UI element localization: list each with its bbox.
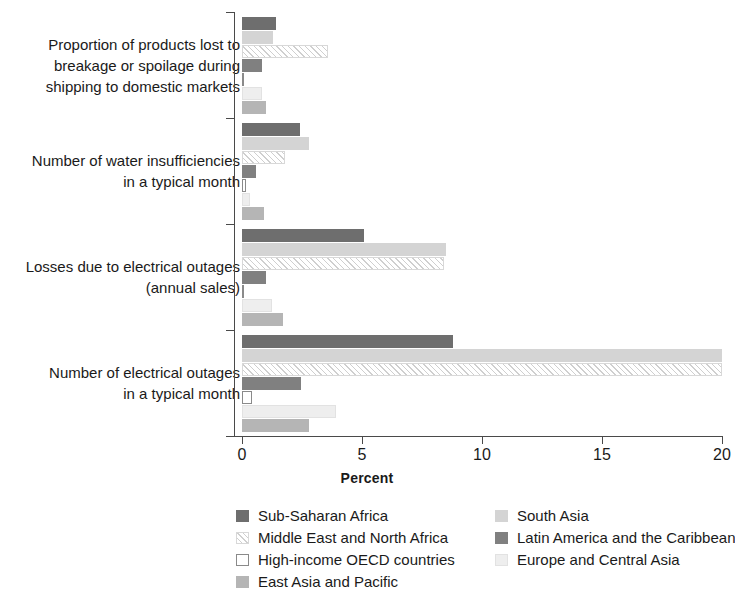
- legend-swatch-icon: [236, 554, 249, 566]
- chart-legend: Sub-Saharan AfricaMiddle East and North …: [0, 505, 734, 600]
- bar-group: [242, 12, 722, 118]
- legend-item[interactable]: Latin America and the Caribbean: [495, 527, 735, 549]
- bar-row: [242, 363, 722, 376]
- y-axis-tick: [226, 118, 235, 119]
- x-axis-title: Percent: [0, 470, 734, 486]
- bar-east-asia-and-pacific: [242, 101, 266, 114]
- x-axis-line: [234, 436, 722, 437]
- bar-row: [242, 31, 722, 44]
- x-axis-tick-label: 10: [473, 446, 491, 464]
- bar-row: [242, 137, 722, 150]
- bar-sub-saharan-africa: [242, 335, 453, 348]
- y-axis-tick: [226, 330, 235, 331]
- bar-high-income-oecd-countries: [242, 391, 252, 404]
- bar-row: [242, 101, 722, 114]
- bar-south-asia: [242, 31, 273, 44]
- legend-label: East Asia and Pacific: [258, 573, 398, 591]
- bar-row: [242, 405, 722, 418]
- bar-south-asia: [242, 137, 309, 150]
- bar-row: [242, 165, 722, 178]
- y-axis-tick: [226, 224, 235, 225]
- bar-europe-and-central-asia: [242, 87, 262, 100]
- bar-middle-east-and-north-africa: [242, 363, 722, 376]
- category-label-line: Losses due to electrical outages: [0, 256, 240, 277]
- bar-row: [242, 229, 722, 242]
- legend-item[interactable]: Sub-Saharan Africa: [236, 505, 455, 527]
- bar-row: [242, 179, 722, 192]
- x-axis-tick: [602, 436, 603, 444]
- category-label-line: Proportion of products lost to: [0, 34, 240, 55]
- category-label-line: in a typical month: [0, 171, 240, 192]
- bar-row: [242, 45, 722, 58]
- legend-column-left: Sub-Saharan AfricaMiddle East and North …: [236, 505, 455, 593]
- legend-label: High-income OECD countries: [258, 551, 455, 569]
- bar-europe-and-central-asia: [242, 405, 336, 418]
- category-label-line: Number of water insufficiencies: [0, 150, 240, 171]
- bar-high-income-oecd-countries: [242, 285, 244, 298]
- category-label-line: breakage or spoilage during: [0, 55, 240, 76]
- bar-row: [242, 17, 722, 30]
- x-axis-tick-label: 0: [238, 446, 247, 464]
- legend-label: Middle East and North Africa: [258, 529, 448, 547]
- plot-area: [242, 12, 722, 436]
- legend-label: South Asia: [517, 507, 589, 525]
- legend-column-right: South AsiaLatin America and the Caribbea…: [495, 505, 735, 571]
- y-axis-tick: [226, 12, 235, 13]
- bar-middle-east-and-north-africa: [242, 151, 285, 164]
- legend-item[interactable]: High-income OECD countries: [236, 549, 455, 571]
- bar-europe-and-central-asia: [242, 193, 250, 206]
- category-label: Losses due to electrical outages(annual …: [0, 256, 240, 298]
- legend-label: Latin America and the Caribbean: [517, 529, 735, 547]
- legend-item[interactable]: Europe and Central Asia: [495, 549, 735, 571]
- bar-latin-america-and-the-caribbean: [242, 165, 256, 178]
- bar-sub-saharan-africa: [242, 229, 364, 242]
- bar-high-income-oecd-countries: [242, 179, 246, 192]
- legend-swatch-icon: [495, 510, 508, 522]
- x-axis-tick: [362, 436, 363, 444]
- bar-row: [242, 299, 722, 312]
- x-axis-tick-label: 20: [713, 446, 731, 464]
- bar-row: [242, 419, 722, 432]
- bar-row: [242, 377, 722, 390]
- legend-swatch-icon: [495, 532, 508, 544]
- bar-row: [242, 193, 722, 206]
- legend-swatch-icon: [236, 576, 249, 588]
- category-label-line: Number of electrical outages: [0, 362, 240, 383]
- bar-row: [242, 73, 722, 86]
- bar-row: [242, 151, 722, 164]
- bar-latin-america-and-the-caribbean: [242, 377, 301, 390]
- bar-sub-saharan-africa: [242, 17, 276, 30]
- bar-row: [242, 313, 722, 326]
- bar-group: [242, 118, 722, 224]
- bar-row: [242, 285, 722, 298]
- bar-row: [242, 391, 722, 404]
- category-label: Number of water insufficienciesin a typi…: [0, 150, 240, 192]
- legend-swatch-icon: [495, 554, 508, 566]
- category-label: Number of electrical outagesin a typical…: [0, 362, 240, 404]
- x-axis-tick: [242, 436, 243, 444]
- bar-middle-east-and-north-africa: [242, 257, 444, 270]
- bar-row: [242, 271, 722, 284]
- legend-label: Europe and Central Asia: [517, 551, 680, 569]
- bar-east-asia-and-pacific: [242, 207, 264, 220]
- bar-south-asia: [242, 349, 722, 362]
- legend-swatch-icon: [236, 510, 249, 522]
- bar-middle-east-and-north-africa: [242, 45, 328, 58]
- x-axis-tick: [482, 436, 483, 444]
- legend-item[interactable]: East Asia and Pacific: [236, 571, 455, 593]
- legend-item[interactable]: South Asia: [495, 505, 735, 527]
- bar-group: [242, 330, 722, 436]
- category-label-line: (annual sales): [0, 277, 240, 298]
- bar-latin-america-and-the-caribbean: [242, 59, 262, 72]
- category-label-line: in a typical month: [0, 383, 240, 404]
- bar-east-asia-and-pacific: [242, 419, 309, 432]
- bar-row: [242, 59, 722, 72]
- legend-item[interactable]: Middle East and North Africa: [236, 527, 455, 549]
- bar-row: [242, 123, 722, 136]
- x-axis-tick-label: 5: [358, 446, 367, 464]
- x-axis-tick-label: 15: [593, 446, 611, 464]
- bar-east-asia-and-pacific: [242, 313, 283, 326]
- bar-group: [242, 224, 722, 330]
- category-label: Proportion of products lost tobreakage o…: [0, 34, 240, 97]
